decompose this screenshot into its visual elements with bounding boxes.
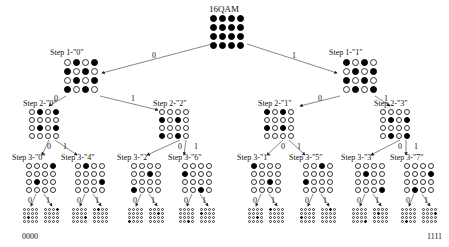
constellation-point [256, 220, 259, 223]
constellation-point [396, 109, 402, 115]
constellation-point [149, 216, 152, 219]
leaf-constellation-7 [200, 208, 215, 223]
constellation-point-selected [210, 15, 217, 22]
constellation-point [183, 212, 186, 215]
constellation-point [412, 171, 418, 177]
constellation-point [187, 212, 190, 215]
constellation-point [179, 220, 182, 223]
root-title: 16QAM [209, 5, 239, 14]
constellation-point [269, 216, 272, 219]
constellation-point [101, 208, 104, 211]
constellation-point [396, 117, 402, 123]
branch-bit-label: 0 [54, 95, 58, 103]
constellation-point [83, 171, 89, 177]
constellation-point [311, 187, 317, 193]
constellation-point [256, 208, 259, 211]
constellation-point [27, 212, 30, 215]
leaf-constellation-0 [23, 208, 38, 223]
constellation-point [153, 212, 156, 215]
constellation-point [371, 163, 377, 169]
constellation-point-selected [83, 163, 89, 169]
constellation-point [161, 216, 164, 219]
constellation-point [281, 216, 284, 219]
constellation-point [343, 68, 350, 75]
constellation-point [44, 216, 47, 219]
constellation-point [23, 220, 26, 223]
constellation-point [204, 212, 207, 215]
constellation-point [281, 220, 284, 223]
constellation-point [64, 77, 71, 84]
constellation-point [256, 212, 259, 215]
leaf-constellation-5 [149, 208, 164, 223]
constellation-point-selected [405, 220, 408, 223]
constellation-point-selected [182, 171, 188, 177]
constellation-point [206, 187, 212, 193]
branch-bit-label: 0 [281, 143, 285, 151]
leaf-constellation-12 [352, 208, 367, 223]
constellation-point [31, 220, 34, 223]
constellation-point [136, 208, 139, 211]
constellation-point [420, 187, 426, 193]
constellation-point [182, 187, 188, 193]
constellation-point [260, 216, 263, 219]
constellation-point-selected [82, 68, 89, 75]
constellation-point [370, 77, 377, 84]
constellation-point-selected [404, 133, 410, 139]
constellation-point [288, 117, 294, 123]
leaf-constellation-10 [300, 208, 315, 223]
constellation-point [175, 125, 181, 131]
constellation-point-selected [377, 212, 380, 215]
constellation-point [377, 220, 380, 223]
leaf-constellation-4 [128, 208, 143, 223]
step3-label-2: Step 3-"2" [117, 153, 150, 162]
constellation-point [72, 216, 75, 219]
constellation-point [183, 117, 189, 123]
constellation-point [409, 216, 412, 219]
constellation-point [277, 220, 280, 223]
constellation-point [288, 125, 294, 131]
branch-bit-label: 1 [414, 143, 418, 151]
constellation-point [50, 171, 56, 177]
constellation-point-selected [319, 163, 325, 169]
constellation-point [420, 179, 426, 185]
constellation-point [35, 220, 38, 223]
constellation-point [363, 179, 369, 185]
constellation-point [136, 216, 139, 219]
constellation-point-selected [210, 33, 217, 40]
constellation-point [422, 208, 425, 211]
constellation-point [99, 171, 105, 177]
constellation-point [288, 109, 294, 115]
constellation-point [204, 208, 207, 211]
constellation-point-selected [73, 59, 80, 66]
constellation-point [401, 216, 404, 219]
constellation-point [91, 163, 97, 169]
constellation-point [208, 212, 211, 215]
constellation-point [45, 125, 51, 131]
constellation-point [373, 220, 376, 223]
branch-bit-label: 0 [253, 197, 257, 205]
constellation-point-selected [363, 171, 369, 177]
constellation-point [329, 212, 332, 215]
constellation-point [321, 208, 324, 211]
step3-constellation-5 [303, 163, 333, 193]
constellation-point-selected [27, 216, 30, 219]
constellation-point [208, 220, 211, 223]
constellation-point [80, 216, 83, 219]
constellation-point [327, 163, 333, 169]
constellation-point [56, 212, 59, 215]
constellation-point [93, 212, 96, 215]
constellation-point-selected [91, 77, 98, 84]
constellation-point [132, 208, 135, 211]
step2-constellation-3 [380, 109, 410, 139]
constellation-point [29, 133, 35, 139]
leaf-constellation-3 [93, 208, 108, 223]
constellation-point-selected [343, 59, 350, 66]
constellation-point [132, 216, 135, 219]
constellation-point [153, 216, 156, 219]
constellation-point [396, 125, 402, 131]
step2-constellation-0 [29, 109, 59, 139]
constellation-point [140, 208, 143, 211]
constellation-point [187, 208, 190, 211]
constellation-point-selected [267, 179, 273, 185]
constellation-point [29, 109, 35, 115]
